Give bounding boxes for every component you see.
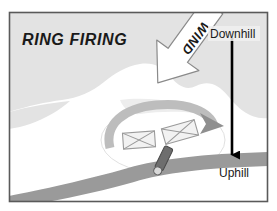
page-title: RING FIRING xyxy=(22,31,127,48)
downhill-label-group: Downhill xyxy=(208,26,260,41)
uphill-label: Uphill xyxy=(219,166,249,180)
downhill-label: Downhill xyxy=(210,27,255,41)
ring-firing-diagram: WIND Downhill Uphill RING FIRING xyxy=(0,0,277,211)
diagram-canvas: WIND Downhill Uphill RING FIRING xyxy=(0,0,277,211)
crew-symbol-left xyxy=(122,131,155,149)
